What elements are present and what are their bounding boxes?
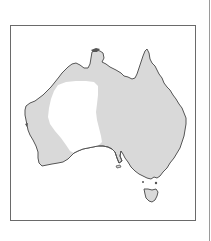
tasmania [144,189,158,202]
kangaroo-island [116,165,121,168]
page-edge-divider [209,0,210,241]
flinders-island [155,182,157,184]
australia-map [0,0,211,241]
king-island [142,181,144,183]
